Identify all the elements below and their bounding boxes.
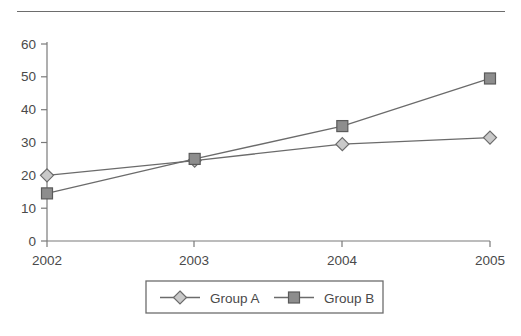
chart-legend: Group A Group B bbox=[146, 281, 383, 313]
y-axis-ticks bbox=[41, 44, 47, 241]
x-axis-ticks bbox=[47, 241, 490, 247]
line-chart-canvas: 60 50 40 30 20 10 0 2002 2003 2004 2005 bbox=[0, 0, 521, 336]
chart-figure: 60 50 40 30 20 10 0 2002 2003 2004 2005 bbox=[0, 0, 521, 336]
series-group-a bbox=[41, 131, 497, 182]
y-tick-label-30: 30 bbox=[21, 135, 36, 150]
y-tick-label-60: 60 bbox=[21, 37, 36, 52]
series-group-b bbox=[42, 73, 496, 199]
square-marker-icon bbox=[289, 292, 300, 303]
x-tick-label-2005: 2005 bbox=[475, 253, 505, 268]
legend-label-group-a: Group A bbox=[210, 291, 260, 306]
series-layer bbox=[41, 73, 497, 199]
y-tick-label-10: 10 bbox=[21, 201, 36, 216]
legend-entry-group-b[interactable]: Group B bbox=[274, 291, 374, 306]
data-point-diamond[interactable] bbox=[336, 138, 349, 151]
data-point-square[interactable] bbox=[189, 153, 200, 164]
legend-label-group-b: Group B bbox=[324, 291, 374, 306]
x-tick-label-2003: 2003 bbox=[179, 253, 209, 268]
data-point-square[interactable] bbox=[485, 73, 496, 84]
data-point-diamond[interactable] bbox=[41, 169, 54, 182]
series-line bbox=[47, 78, 490, 193]
y-tick-label-0: 0 bbox=[28, 234, 36, 249]
series-line bbox=[47, 138, 490, 176]
y-tick-label-20: 20 bbox=[21, 168, 36, 183]
y-tick-label-40: 40 bbox=[21, 102, 36, 117]
data-point-diamond[interactable] bbox=[484, 131, 497, 144]
x-tick-label-2002: 2002 bbox=[32, 253, 62, 268]
data-point-square[interactable] bbox=[337, 121, 348, 132]
y-tick-label-50: 50 bbox=[21, 69, 36, 84]
data-point-square[interactable] bbox=[42, 188, 53, 199]
x-tick-label-2004: 2004 bbox=[327, 253, 358, 268]
